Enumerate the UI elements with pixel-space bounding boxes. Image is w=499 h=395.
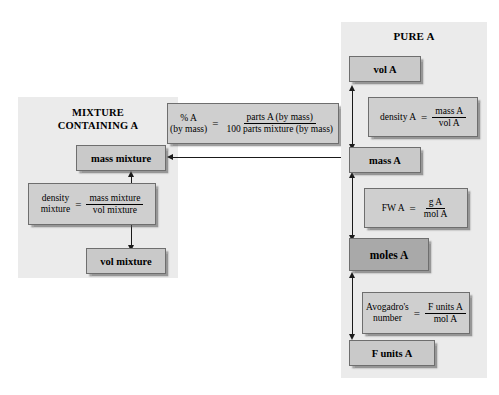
fw-a-equation: FW A = g A mol A [382, 197, 451, 219]
density-a-lhs: density A [380, 112, 416, 123]
box-vol-mixture[interactable]: vol mixture [86, 248, 166, 274]
box-moles-a[interactable]: moles A [349, 238, 429, 271]
percent-numerator: parts A (by mass) [244, 112, 316, 124]
box-vol-a[interactable]: vol A [349, 56, 421, 82]
avogadro-equals: = [413, 307, 421, 319]
pure-a-panel-title: PURE A [341, 30, 487, 43]
density-a-equation: density A = mass A vol A [380, 106, 466, 128]
density-mixture-fraction: mass mixture vol mixture [86, 193, 143, 215]
box-mass-a[interactable]: mass A [349, 147, 421, 173]
box-density-a-formula[interactable]: density A = mass A vol A [368, 97, 478, 137]
mixture-title-line2: CONTAINING A [18, 120, 178, 133]
percent-equals: = [211, 117, 219, 129]
density-mixture-equation: density mixture = mass mixture vol mixtu… [41, 193, 144, 215]
box-f-units-a-label: F units A [372, 348, 412, 359]
diagram-canvas: MIXTURE CONTAINING A mass mixture densit… [0, 0, 499, 395]
fw-a-denominator: mol A [421, 209, 451, 220]
density-a-equals: = [420, 111, 428, 123]
percent-fraction: parts A (by mass) 100 parts mixture (by … [223, 112, 336, 134]
density-mixture-lhs-line2: mixture [41, 204, 71, 215]
avogadro-lhs: Avogadro's number [366, 302, 409, 323]
avogadro-fraction: F units A mol A [425, 302, 466, 324]
density-mixture-denominator: vol mixture [90, 205, 140, 216]
mass-mixture-arrowhead-left [167, 154, 173, 160]
moles-a-arrowhead-up-from-f-units [349, 272, 355, 278]
percent-equation: % A (by mass) = parts A (by mass) 100 pa… [170, 112, 336, 134]
percent-denominator: 100 parts mixture (by mass) [223, 124, 336, 135]
percent-lhs-line1: % A [170, 113, 207, 124]
percent-lhs: % A (by mass) [170, 113, 207, 134]
vol-a-mass-a-arrow-line [352, 88, 353, 147]
density-a-numerator: mass A [432, 106, 466, 118]
fw-a-fraction: g A mol A [421, 197, 451, 219]
box-fw-a-formula[interactable]: FW A = g A mol A [364, 188, 468, 228]
avogadro-denominator: mol A [431, 314, 461, 325]
mixture-title-line1: MIXTURE [18, 107, 178, 120]
box-vol-a-label: vol A [373, 64, 396, 75]
fw-a-lhs: FW A [382, 203, 405, 214]
fw-a-equals: = [409, 202, 417, 214]
avogadro-lhs-line2: number [366, 313, 409, 324]
box-percent-a-formula[interactable]: % A (by mass) = parts A (by mass) 100 pa… [167, 103, 339, 144]
density-a-fraction: mass A vol A [432, 106, 466, 128]
fw-a-numerator: g A [426, 197, 445, 209]
density-mixture-numerator: mass mixture [86, 193, 143, 205]
mass-mixture-mass-a-arrow-line [173, 157, 348, 158]
box-vol-mixture-label: vol mixture [100, 256, 151, 267]
box-density-mixture-formula[interactable]: density mixture = mass mixture vol mixtu… [28, 183, 156, 225]
box-mass-a-label: mass A [369, 155, 401, 166]
vol-a-arrowhead-up [349, 85, 355, 91]
box-mass-mixture-label: mass mixture [91, 153, 151, 164]
avogadro-equation: Avogadro's number = F units A mol A [366, 302, 466, 324]
density-mixture-lhs: density mixture [41, 193, 71, 214]
box-mass-mixture[interactable]: mass mixture [76, 145, 166, 171]
percent-lhs-line2: (by mass) [170, 124, 207, 135]
mass-mixture-arrowhead-up [128, 171, 134, 177]
mass-a-moles-a-arrow-line [352, 175, 353, 238]
density-a-denominator: vol A [436, 118, 463, 129]
avogadro-numerator: F units A [425, 302, 466, 314]
box-avogadro-formula[interactable]: Avogadro's number = F units A mol A [362, 292, 470, 334]
moles-a-f-units-arrow-line [352, 275, 353, 337]
avogadro-lhs-line1: Avogadro's [366, 302, 409, 313]
box-moles-a-label: moles A [370, 249, 409, 261]
density-mixture-lhs-line1: density [41, 193, 71, 204]
mixture-panel-title: MIXTURE CONTAINING A [18, 107, 178, 132]
box-f-units-a[interactable]: F units A [349, 340, 435, 366]
density-mixture-equals: = [74, 198, 82, 210]
